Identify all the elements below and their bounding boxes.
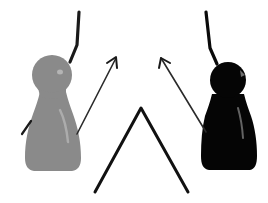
right-arrow-icon xyxy=(159,58,206,132)
scene-svg xyxy=(0,0,268,203)
illustration-canvas xyxy=(0,0,268,203)
gray-pawn-head-highlight xyxy=(57,70,63,75)
caret-icon xyxy=(95,108,188,192)
left-arrow-icon xyxy=(77,57,117,134)
gray-pawn-body xyxy=(25,92,81,171)
black-pawn-body xyxy=(201,94,257,170)
black-pawn-head xyxy=(210,62,246,98)
gray-pawn xyxy=(25,55,81,171)
black-pawn xyxy=(201,62,257,170)
left-antenna-line xyxy=(70,12,79,62)
right-antenna-line xyxy=(206,12,217,64)
